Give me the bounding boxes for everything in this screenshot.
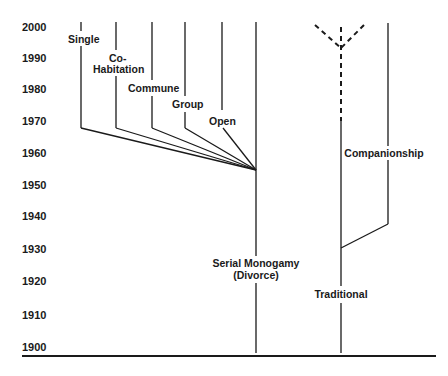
branch-companionship: Companionship [341, 23, 424, 248]
marriage-forms-diagram: 2000 1990 1980 1970 1960 1950 1940 1930 … [0, 0, 448, 376]
y-tick-1980: 1980 [22, 83, 46, 95]
label-group: Group [172, 98, 204, 110]
y-tick-1910: 1910 [22, 309, 46, 321]
y-tick-1950: 1950 [22, 179, 46, 191]
branch-open: Open [209, 22, 256, 170]
y-tick-1990: 1990 [22, 52, 46, 64]
y-tick-2000: 2000 [22, 21, 46, 33]
branch-commune: Commune [128, 22, 256, 170]
branch-group: Group [172, 22, 256, 170]
branch-traditional: Traditional [314, 25, 367, 353]
label-open: Open [209, 115, 236, 127]
traditional-dashed-fork-right [341, 25, 364, 48]
y-tick-1960: 1960 [22, 147, 46, 159]
label-companionship: Companionship [344, 147, 423, 159]
label-serial-monogamy: Serial Monogamy [213, 257, 300, 269]
traditional-dashed-fork-left [315, 25, 341, 48]
branch-cohabitation: Co- Habitation [93, 22, 256, 170]
label-divorce: (Divorce) [233, 269, 279, 281]
label-traditional: Traditional [314, 288, 367, 300]
branch-serial-monogamy: Serial Monogamy (Divorce) [213, 22, 300, 353]
y-axis-labels: 2000 1990 1980 1970 1960 1950 1940 1930 … [22, 21, 46, 353]
y-tick-1930: 1930 [22, 243, 46, 255]
y-tick-1940: 1940 [22, 210, 46, 222]
branch-single: Single [68, 22, 256, 170]
y-tick-1920: 1920 [22, 275, 46, 287]
y-tick-1970: 1970 [22, 115, 46, 127]
label-commune: Commune [128, 82, 179, 94]
label-single: Single [68, 33, 100, 45]
y-tick-1900: 1900 [22, 341, 46, 353]
label-cohabitation-2: Habitation [93, 63, 144, 75]
